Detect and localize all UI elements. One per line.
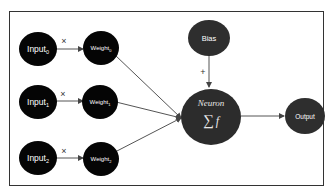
weight-label-1: Weight bbox=[90, 99, 109, 105]
multiply-symbol-2: × bbox=[61, 146, 66, 156]
output-node: Output bbox=[285, 98, 325, 134]
edge-weight1-neuron bbox=[116, 102, 181, 118]
input-node-1: Input1 bbox=[19, 85, 57, 119]
input-label-2: Input bbox=[27, 153, 47, 163]
bias-label: Bias bbox=[202, 34, 217, 43]
neuron-diagram: × × × + Input0 Input1 Input2 Weight0 Wei… bbox=[0, 0, 332, 195]
input-label-0: Input bbox=[27, 44, 47, 54]
input-label-1: Input bbox=[27, 97, 47, 107]
multiply-symbol-0: × bbox=[61, 36, 66, 46]
weight-node-0: Weight0 bbox=[83, 31, 119, 65]
weight-node-1: Weight1 bbox=[82, 85, 118, 119]
input-node-2: Input2 bbox=[19, 141, 57, 175]
weight-label-2: Weight bbox=[91, 156, 110, 162]
edge-weight0-neuron bbox=[115, 55, 181, 118]
neuron-title: Neuron bbox=[197, 98, 225, 108]
multiply-symbol-1: × bbox=[60, 89, 65, 99]
edge-weight2-neuron bbox=[115, 118, 181, 152]
bias-plus-symbol: + bbox=[200, 67, 205, 77]
svg-text:∑f: ∑f bbox=[203, 112, 221, 129]
sum-symbol: ∑ bbox=[203, 112, 214, 129]
weight-node-2: Weight2 bbox=[83, 142, 119, 176]
svg-text:Input2: Input2 bbox=[27, 153, 49, 164]
output-label: Output bbox=[295, 113, 315, 121]
bias-node: Bias bbox=[188, 20, 230, 56]
weight-label-0: Weight bbox=[91, 45, 110, 51]
input-node-0: Input0 bbox=[19, 32, 57, 66]
svg-text:Input1: Input1 bbox=[27, 97, 49, 108]
input-sub-1: 1 bbox=[46, 102, 49, 108]
neuron-node: Neuron ∑f bbox=[181, 89, 241, 145]
input-sub-0: 0 bbox=[46, 49, 49, 55]
svg-text:Input0: Input0 bbox=[27, 44, 49, 55]
input-sub-2: 2 bbox=[46, 158, 49, 164]
